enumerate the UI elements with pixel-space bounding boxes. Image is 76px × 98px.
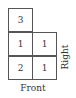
cell-value: 3 — [18, 16, 24, 25]
front-label: Front — [8, 84, 58, 93]
cell-value: 2 — [18, 64, 24, 73]
right-label: Right — [61, 45, 70, 70]
grid-cell-r1-c0: 1 — [8, 32, 33, 56]
cell-value: 1 — [42, 40, 48, 49]
grid-cell-r1-c1: 1 — [32, 32, 57, 56]
cell-value: 1 — [42, 64, 48, 73]
grid-cell-r2-c0: 2 — [8, 56, 33, 80]
grid-cell-r0-c0: 3 — [8, 8, 33, 32]
cell-value: 1 — [18, 40, 24, 49]
grid-cell-r2-c1: 1 — [32, 56, 57, 80]
